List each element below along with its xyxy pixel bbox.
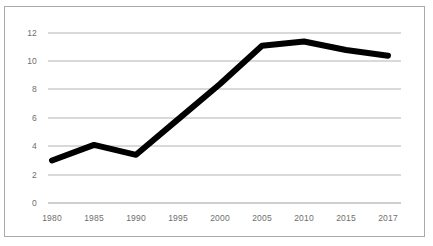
y-tick-label-2: 2 xyxy=(19,170,37,180)
figure-caption xyxy=(4,239,425,246)
data-series-line xyxy=(52,42,388,161)
x-tick-label-2010: 2010 xyxy=(284,213,324,223)
y-tick-label-6: 6 xyxy=(19,113,37,123)
y-tick-label-4: 4 xyxy=(19,141,37,151)
y-tick-label-8: 8 xyxy=(19,84,37,94)
gridlines xyxy=(48,33,401,175)
figure-root: 12 10 8 6 4 2 0 1980 1985 1990 1995 2000… xyxy=(0,0,433,246)
y-tick-label-0: 0 xyxy=(19,198,37,208)
x-tick-label-1990: 1990 xyxy=(116,213,156,223)
x-tick-label-1980: 1980 xyxy=(32,213,72,223)
chart-frame: 12 10 8 6 4 2 0 1980 1985 1990 1995 2000… xyxy=(4,6,425,237)
y-tick-label-12: 12 xyxy=(19,28,37,38)
y-tick-label-10: 10 xyxy=(19,56,37,66)
line-chart-plot xyxy=(5,7,424,236)
x-tick-label-1995: 1995 xyxy=(158,213,198,223)
x-tick-label-2005: 2005 xyxy=(242,213,282,223)
x-tick-label-2015: 2015 xyxy=(326,213,366,223)
x-tick-label-2017: 2017 xyxy=(368,213,408,223)
x-tick-label-1985: 1985 xyxy=(74,213,114,223)
x-tick-label-2000: 2000 xyxy=(200,213,240,223)
